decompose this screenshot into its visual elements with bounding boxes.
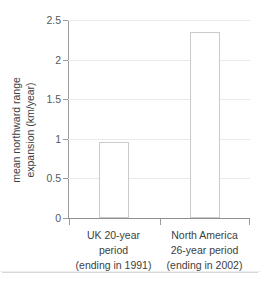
y-axis-tick <box>63 20 68 21</box>
x-axis-line <box>68 218 250 219</box>
y-axis-tick-label: 2 <box>55 54 61 65</box>
category-label-line: 26-year period <box>159 243 250 258</box>
gridline <box>68 99 250 100</box>
category-label-line: UK 20-year <box>68 228 159 243</box>
y-axis-tick-label: 1.5 <box>46 94 61 105</box>
y-axis-tick-label: 1 <box>55 134 61 145</box>
footer-rule <box>2 272 258 273</box>
y-axis-title: mean northward range expansion (km/year) <box>9 44 37 216</box>
y-axis-title-line-1: mean northward range <box>10 77 22 183</box>
y-axis-tick-label: 0 <box>55 213 61 224</box>
x-axis-tick <box>249 219 250 225</box>
x-axis-category-label: North America26-year period(ending in 20… <box>159 228 250 274</box>
y-axis-tick <box>63 60 68 61</box>
y-axis-tick <box>63 139 68 140</box>
bar-chart-figure: mean northward range expansion (km/year)… <box>0 0 261 282</box>
x-axis-category-labels: UK 20-yearperiod(ending in 1991)North Am… <box>68 228 250 274</box>
gridline <box>68 178 250 179</box>
x-axis-tick <box>160 219 161 225</box>
gridline <box>68 60 250 61</box>
y-axis-tick <box>63 178 68 179</box>
y-axis-tick-label: 0.5 <box>46 173 61 184</box>
y-axis-tick <box>63 99 68 100</box>
plot-area: 00.511.522.5 <box>68 20 250 218</box>
y-axis-title-line-2: expansion (km/year) <box>23 44 37 216</box>
bar <box>190 32 220 218</box>
x-axis-tick <box>69 219 70 225</box>
y-axis-line <box>68 20 69 219</box>
bar <box>99 142 129 218</box>
y-axis-tick <box>63 218 68 219</box>
gridline <box>68 20 250 21</box>
category-label-line: period <box>68 243 159 258</box>
clipped-caption-sliver <box>0 0 261 4</box>
x-axis-category-label: UK 20-yearperiod(ending in 1991) <box>68 228 159 274</box>
y-axis-tick-label: 2.5 <box>46 15 61 26</box>
category-label-line: North America <box>159 228 250 243</box>
gridline <box>68 139 250 140</box>
